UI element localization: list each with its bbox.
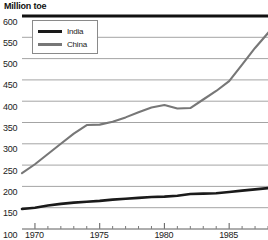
legend-label-india: India xyxy=(67,27,83,36)
y-axis-tick-label: 100 xyxy=(3,231,17,240)
y-axis-tick-label: 400 xyxy=(3,103,17,112)
x-axis-tick-label: 1980 xyxy=(154,231,173,240)
y-axis-tick-label: 200 xyxy=(3,188,17,197)
chart-root: Million toe 6005505004504003503002502001… xyxy=(0,0,268,240)
y-axis-tick-label: 150 xyxy=(3,209,17,218)
legend-label-china: China xyxy=(67,40,87,49)
y-axis-tick-label: 550 xyxy=(3,39,17,48)
y-axis-tick-label: 350 xyxy=(3,124,17,133)
x-axis-tick-label: 1975 xyxy=(90,231,109,240)
x-axis-tick-label: 1970 xyxy=(25,231,44,240)
series-line-india xyxy=(22,188,268,209)
y-axis-tick-label: 500 xyxy=(3,60,17,69)
legend-swatch-india xyxy=(38,30,62,33)
y-axis-tick-label: 450 xyxy=(3,81,17,90)
chart-legend: India China xyxy=(32,20,98,54)
legend-item-china: China xyxy=(38,38,87,50)
legend-item-india: India xyxy=(38,25,83,37)
y-axis-tick-label: 250 xyxy=(3,167,17,176)
legend-swatch-china xyxy=(38,43,62,46)
x-axis-ticks xyxy=(35,223,268,229)
y-axis-tick-label: 300 xyxy=(3,145,17,154)
x-axis-tick-label: 1985 xyxy=(219,231,238,240)
y-axis-tick-label: 600 xyxy=(3,18,17,27)
